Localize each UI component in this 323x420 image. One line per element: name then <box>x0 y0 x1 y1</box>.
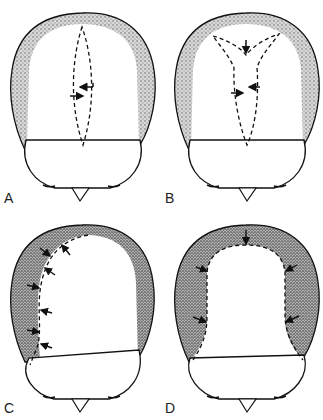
panel-label-c: C <box>4 400 14 416</box>
head-lower-outline <box>26 350 140 399</box>
head-diagram-b <box>161 0 322 210</box>
panel-label-b: B <box>165 190 174 206</box>
nose-icon <box>239 188 256 201</box>
bald-crown <box>38 235 138 360</box>
bald-crown <box>191 24 303 148</box>
panel-c: C <box>0 210 161 420</box>
panel-b: B <box>161 0 322 210</box>
nose-icon <box>72 188 89 201</box>
head-diagram-c <box>0 210 161 420</box>
nose-icon <box>239 399 256 412</box>
panel-a: A <box>0 0 161 210</box>
panel-label-d: D <box>165 400 175 416</box>
bald-crown <box>27 24 139 148</box>
head-lower-outline <box>25 140 142 188</box>
panel-label-a: A <box>4 190 13 206</box>
head-diagram-d <box>161 210 322 420</box>
head-diagram-a <box>0 0 161 210</box>
nose-icon <box>72 399 89 412</box>
panel-d: D <box>161 210 322 420</box>
head-lower-outline <box>189 140 306 188</box>
head-lower-outline <box>189 355 306 399</box>
